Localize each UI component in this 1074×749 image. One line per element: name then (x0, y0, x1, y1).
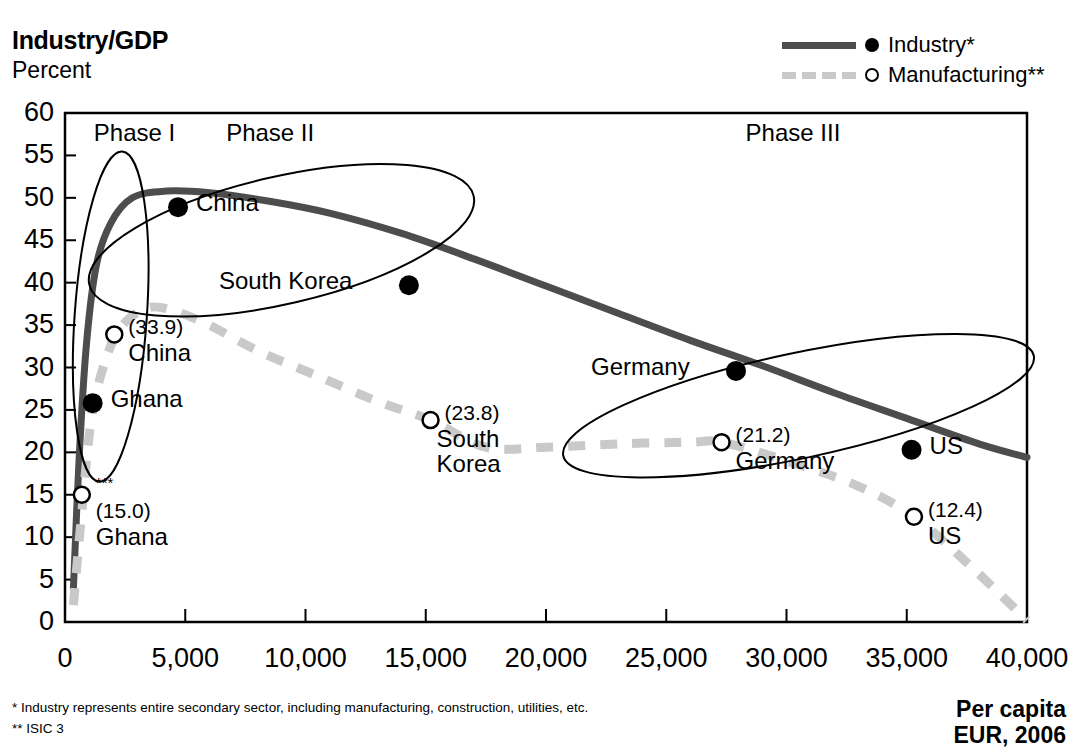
point-value-us-manufacturing: (12.4) (928, 498, 983, 521)
x-axis-tick-label: 30,000 (745, 645, 828, 672)
y-axis-tick-label: 20 (2, 438, 54, 465)
point-label-ghana-manufacturing: ***(15.0)Ghana (96, 475, 168, 549)
data-point-china-industry[interactable] (168, 197, 188, 217)
point-name-germany-industry: Germany (591, 354, 690, 379)
y-axis-tick-label: 50 (2, 184, 54, 211)
point-name-us-industry: US (930, 433, 963, 458)
x-axis-tick-label: 25,000 (625, 645, 708, 672)
point-value-south-korea-manufacturing: (23.8) (445, 401, 500, 424)
phase-label-2: Phase II (226, 119, 314, 147)
point-name-china-manufacturing: China (128, 340, 191, 365)
point-name-china-industry: China (196, 190, 259, 215)
data-point-us-manufacturing[interactable] (906, 509, 922, 525)
point-label-us-manufacturing: (12.4)US (928, 499, 983, 548)
point-value-ghana-manufacturing: (15.0) (96, 500, 168, 522)
data-point-china-manufacturing[interactable] (106, 326, 122, 342)
x-axis-tick-label: 20,000 (505, 645, 588, 672)
point-name-ghana-manufacturing: Ghana (96, 524, 168, 549)
x-axis-tick-label: 10,000 (264, 645, 347, 672)
x-axis-tick-label: 40,000 (986, 645, 1069, 672)
point-name-south-korea-industry: South Korea (219, 268, 352, 293)
y-axis-tick-label: 15 (2, 481, 54, 508)
point-name-ghana-industry: Ghana (111, 386, 183, 411)
series-line-manufacturing (73, 307, 1027, 621)
y-axis-tick-label: 45 (2, 226, 54, 253)
point-label-south-korea-industry: South Korea (219, 268, 352, 293)
point-label-us-industry: US (930, 433, 963, 458)
y-axis-tick-label: 60 (2, 99, 54, 126)
x-axis-caption: Per capita EUR, 2006 (953, 697, 1066, 749)
point-label-ghana-industry: Ghana (111, 386, 183, 411)
phase-label-1: Phase I (94, 119, 175, 147)
y-axis-tick-label: 0 (2, 608, 54, 635)
point-label-china-industry: China (196, 190, 259, 215)
y-axis-tick-label: 25 (2, 396, 54, 423)
x-axis-tick-label: 5,000 (151, 645, 219, 672)
x-axis-tick-label: 15,000 (384, 645, 467, 672)
point-label-south-korea-manufacturing: (23.8)South Korea (445, 402, 532, 476)
data-point-ghana-manufacturing[interactable] (74, 487, 90, 503)
y-axis-tick-label: 35 (2, 311, 54, 338)
x-axis-tick-label: 0 (57, 645, 72, 672)
y-axis-tick-label: 10 (2, 523, 54, 550)
point-label-germany-manufacturing: (21.2)Germany (736, 424, 835, 473)
phase-iii-ellipse (552, 304, 1044, 507)
data-point-south-korea-industry[interactable] (399, 275, 419, 295)
data-point-germany-industry[interactable] (726, 361, 746, 381)
y-axis-tick-label: 55 (2, 141, 54, 168)
y-axis-tick-label: 5 (2, 566, 54, 593)
x-axis-caption-line1: Per capita (956, 696, 1066, 722)
data-point-ghana-industry[interactable] (83, 393, 103, 413)
y-axis-tick-label: 40 (2, 269, 54, 296)
data-point-us-industry[interactable] (902, 440, 922, 460)
footnote-1: * Industry represents entire secondary s… (12, 699, 588, 717)
point-label-germany-industry: Germany (591, 354, 690, 379)
x-axis-tick-label: 35,000 (865, 645, 948, 672)
x-axis-caption-line2: EUR, 2006 (953, 723, 1066, 749)
point-name-us-manufacturing: US (928, 523, 983, 548)
series-line-industry (73, 191, 1027, 588)
point-value-china-manufacturing: (33.9) (128, 315, 183, 338)
point-label-china-manufacturing: (33.9)China (128, 316, 191, 365)
footnote-marker-ghana-manufacturing: *** (96, 474, 114, 491)
footnote-2: ** ISIC 3 (12, 720, 64, 738)
point-value-germany-manufacturing: (21.2) (736, 423, 791, 446)
phase-label-3: Phase III (746, 119, 841, 147)
y-axis-tick-label: 30 (2, 354, 54, 381)
data-point-germany-manufacturing[interactable] (714, 434, 730, 450)
point-name-germany-manufacturing: Germany (736, 448, 835, 473)
point-name-south-korea-manufacturing: South Korea (437, 426, 532, 476)
